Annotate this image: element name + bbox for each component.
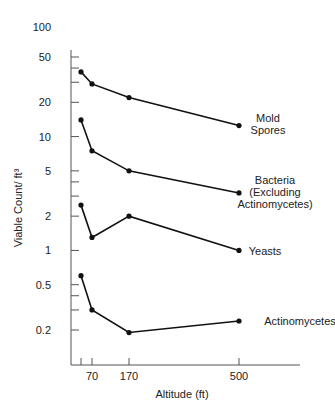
series-line xyxy=(81,72,239,126)
data-point xyxy=(236,248,241,253)
series-label: Yeasts xyxy=(249,245,282,257)
y-axis-title: Viable Count/ ft³ xyxy=(12,168,24,247)
series-label: Spores xyxy=(251,124,286,136)
line-chart: 1005020105210.50.2 70170500 MoldSporesBa… xyxy=(0,0,335,420)
data-point xyxy=(89,148,94,153)
x-axis-ticks: 70170500 xyxy=(81,358,248,382)
data-point xyxy=(78,203,83,208)
y-tick-label: 20 xyxy=(39,96,51,108)
data-point xyxy=(78,117,83,122)
series-lines xyxy=(78,69,241,335)
series-label: (Excluding xyxy=(249,186,300,198)
data-point xyxy=(126,168,131,173)
series-label: Actinomycetes) xyxy=(237,198,312,210)
series-label: Bacteria xyxy=(255,174,296,186)
x-tick-label: 170 xyxy=(120,370,138,382)
data-point xyxy=(236,123,241,128)
series-labels: MoldSporesBacteria(ExcludingActinomycete… xyxy=(237,112,335,327)
x-axis-title: Altitude (ft) xyxy=(155,388,208,400)
series-line xyxy=(81,276,239,333)
data-point xyxy=(126,330,131,335)
y-tick-label: 2 xyxy=(45,210,51,222)
data-point xyxy=(236,318,241,323)
x-tick-label: 500 xyxy=(230,370,248,382)
y-tick-label: 100 xyxy=(33,21,51,33)
data-point xyxy=(78,69,83,74)
data-point xyxy=(236,190,241,195)
series-line xyxy=(81,120,239,193)
y-tick-label: 0.5 xyxy=(36,279,51,291)
y-tick-label: 1 xyxy=(45,244,51,256)
data-point xyxy=(89,81,94,86)
data-point xyxy=(126,214,131,219)
y-tick-label: 10 xyxy=(39,131,51,143)
data-point xyxy=(89,307,94,312)
y-tick-label: 50 xyxy=(39,51,51,63)
data-point xyxy=(126,95,131,100)
y-tick-label: 5 xyxy=(45,165,51,177)
y-tick-label: 0.2 xyxy=(36,324,51,336)
series-label: Actinomycetes xyxy=(264,315,335,327)
y-axis-ticks: 1005020105210.50.2 xyxy=(33,21,79,336)
series-label: Mold xyxy=(256,112,280,124)
x-tick-label: 70 xyxy=(86,370,98,382)
data-point xyxy=(78,273,83,278)
series-line xyxy=(81,205,239,250)
data-point xyxy=(89,235,94,240)
